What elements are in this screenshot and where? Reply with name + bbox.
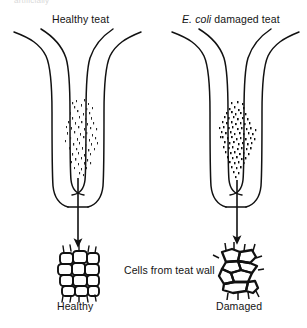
damaged-cell-cluster — [213, 242, 264, 300]
healthy-teat-outer-left-wall — [14, 32, 68, 207]
damaged-cells-label: Damaged — [216, 300, 262, 312]
damaged-teat-outer-left-wall — [172, 32, 226, 207]
damaged-teat-inner-left-wall — [199, 29, 242, 195]
damaged-teat-label-rest: damaged teat — [211, 13, 279, 25]
healthy-teat-panel — [14, 29, 141, 302]
teat-diagram-canvas — [0, 0, 307, 328]
cells-from-teat-wall-caption: Cells from teat wall — [124, 264, 215, 276]
damaged-keratin-stipple — [219, 101, 256, 178]
teat-diagram-figure: artificially — [0, 0, 307, 328]
damaged-teat-inner-right-wall — [230, 29, 271, 195]
healthy-teat-label: Healthy teat — [52, 13, 109, 25]
healthy-teat-outer-right-wall — [88, 32, 141, 207]
damaged-teat-panel — [172, 29, 299, 300]
damaged-teat-outer-right-wall — [246, 32, 299, 207]
ecoli-species-name: E. coli — [182, 13, 211, 25]
healthy-cell-cluster — [58, 244, 99, 302]
damaged-teat-label: E. coli damaged teat — [182, 13, 280, 25]
healthy-cells-label: Healthy — [57, 300, 93, 312]
